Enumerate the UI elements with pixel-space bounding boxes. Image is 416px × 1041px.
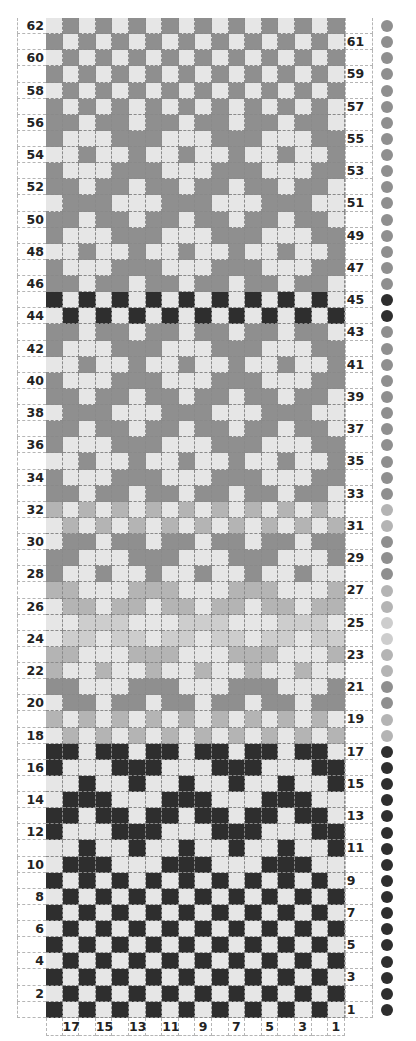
chart-cell (96, 276, 113, 292)
chart-row: 48 (17, 244, 373, 260)
chart-cell (162, 66, 179, 82)
chart-cell (278, 308, 295, 324)
chart-row: 33 (17, 486, 373, 502)
row-number-left (17, 131, 46, 147)
chart-cell (146, 405, 163, 421)
chart-cell (295, 341, 312, 357)
chart-cell (96, 744, 113, 760)
chart-cell (262, 663, 279, 679)
chart-cell (162, 889, 179, 905)
chart-cell (162, 179, 179, 195)
row-color-dot-icon (381, 536, 393, 548)
chart-cell (195, 470, 212, 486)
row-color-dot-icon (381, 617, 393, 629)
row-number-left: 38 (17, 405, 46, 421)
chart-cell (112, 631, 129, 647)
chart-cell (278, 615, 295, 631)
row-number-left (17, 905, 46, 921)
chart-cell (179, 824, 196, 840)
chart-cell (195, 728, 212, 744)
row-number-left (17, 34, 46, 50)
chart-cell (295, 840, 312, 856)
chart-cell (179, 695, 196, 711)
row-number-left: 50 (17, 212, 46, 228)
chart-cell (229, 292, 246, 308)
chart-cell (129, 115, 146, 131)
chart-cell (46, 83, 63, 99)
chart-cell (146, 840, 163, 856)
row-color-dot-icon (381, 520, 393, 532)
chart-cell (96, 357, 113, 373)
chart-cell (146, 744, 163, 760)
chart-cell (295, 857, 312, 873)
chart-cell (129, 50, 146, 66)
row-color-dot-icon (381, 923, 393, 935)
chart-cell (229, 18, 246, 34)
chart-cell (146, 147, 163, 163)
chart-cell (179, 776, 196, 792)
chart-cell (63, 244, 80, 260)
chart-cell (112, 534, 129, 550)
chart-cell (179, 163, 196, 179)
row-color-dot-icon (381, 827, 393, 839)
chart-cell (96, 760, 113, 776)
row-number-right (345, 663, 373, 679)
chart-cell (96, 840, 113, 856)
chart-cell (229, 792, 246, 808)
chart-cell (162, 744, 179, 760)
chart-cell (129, 66, 146, 82)
row-number-left (17, 647, 46, 663)
chart-cell (229, 631, 246, 647)
chart-cell (46, 615, 63, 631)
chart-row: 7 (17, 905, 373, 921)
chart-cell (96, 534, 113, 550)
chart-cell (46, 486, 63, 502)
chart-cell (179, 308, 196, 324)
chart-cell (245, 373, 262, 389)
chart-cell (129, 453, 146, 469)
row-number-right: 37 (345, 421, 373, 437)
chart-cell (112, 873, 129, 889)
chart-cell (179, 421, 196, 437)
chart-cell (262, 711, 279, 727)
chart-cell (195, 292, 212, 308)
chart-cell (195, 18, 212, 34)
chart-row: 36 (17, 437, 373, 453)
chart-cell (245, 921, 262, 937)
chart-cell (212, 212, 229, 228)
chart-row: 38 (17, 405, 373, 421)
chart-cell (245, 937, 262, 953)
chart-cell (195, 357, 212, 373)
row-number-right (345, 631, 373, 647)
chart-cell (212, 115, 229, 131)
chart-cell (63, 744, 80, 760)
chart-cell (46, 937, 63, 953)
row-color-dot-icon (381, 214, 393, 226)
chart-cell (112, 550, 129, 566)
chart-cell (278, 212, 295, 228)
chart-row: 47 (17, 260, 373, 276)
chart-cell (179, 389, 196, 405)
chart-cell (146, 34, 163, 50)
chart-cell (328, 195, 345, 211)
chart-cell (162, 228, 179, 244)
row-number-left: 48 (17, 244, 46, 260)
chart-cell (162, 582, 179, 598)
column-number: 11 (162, 1018, 179, 1036)
chart-cell (195, 889, 212, 905)
chart-cell (46, 34, 63, 50)
chart-cell (46, 437, 63, 453)
chart-cell (212, 83, 229, 99)
chart-cell (79, 18, 96, 34)
chart-cell (146, 631, 163, 647)
chart-cell (79, 437, 96, 453)
chart-cell (179, 131, 196, 147)
chart-cell (195, 647, 212, 663)
chart-cell (146, 179, 163, 195)
chart-cell (79, 260, 96, 276)
chart-cell (195, 857, 212, 873)
chart-row: 62 (17, 18, 373, 34)
chart-cell (146, 453, 163, 469)
chart-cell (112, 744, 129, 760)
chart-cell (295, 83, 312, 99)
